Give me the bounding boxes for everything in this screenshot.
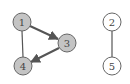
node-label: 2: [109, 17, 115, 28]
edge-1-3-arrow: [30, 26, 58, 39]
node-2: 2: [103, 13, 121, 31]
node-label: 4: [20, 61, 26, 72]
node-1: 1: [13, 13, 31, 31]
node-label: 1: [19, 17, 25, 28]
node-label: 5: [109, 61, 115, 72]
node-4: 4: [14, 57, 32, 75]
edge-1-4: [22, 31, 23, 57]
graph-diagram: 1 3 4 2 5: [0, 0, 130, 84]
node-3: 3: [58, 34, 76, 52]
edge-3-4-arrow: [31, 48, 59, 62]
node-label: 3: [64, 38, 70, 49]
node-5: 5: [103, 57, 121, 75]
